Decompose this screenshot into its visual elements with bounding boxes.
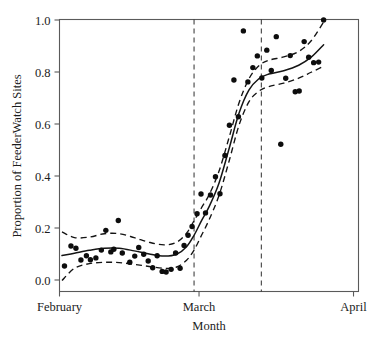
data-point xyxy=(203,210,208,215)
x-axis-title: Month xyxy=(192,319,226,333)
data-point xyxy=(99,247,104,252)
confidence-upper-band xyxy=(62,22,324,245)
data-point xyxy=(73,246,78,251)
data-point xyxy=(283,76,288,81)
x-axis-tick-labels: FebruaryMarchApril xyxy=(37,300,367,314)
data-point xyxy=(154,253,159,258)
data-point xyxy=(316,59,321,64)
x-tick-label: April xyxy=(340,300,367,314)
y-tick-label: 0.8 xyxy=(35,66,51,80)
data-point xyxy=(181,243,186,248)
chart-figure: 0.00.20.40.60.81.0 FebruaryMarchApril Pr… xyxy=(0,0,371,339)
data-point xyxy=(68,243,73,248)
data-point xyxy=(255,53,260,58)
x-tick-label: March xyxy=(183,300,216,314)
data-point xyxy=(194,211,199,216)
data-point xyxy=(88,257,93,262)
y-tick-label: 1.0 xyxy=(35,14,51,28)
data-point xyxy=(136,245,141,250)
y-tick-label: 0.6 xyxy=(35,118,51,132)
data-point xyxy=(250,65,255,70)
data-point xyxy=(297,88,302,93)
data-point xyxy=(127,260,132,265)
data-point xyxy=(93,255,98,260)
data-point xyxy=(185,233,190,238)
data-point xyxy=(274,34,279,39)
x-axis-ticks xyxy=(60,292,354,297)
data-point xyxy=(264,47,269,52)
data-point xyxy=(103,228,108,233)
data-point xyxy=(168,267,173,272)
data-point xyxy=(146,258,151,263)
data-point xyxy=(306,54,311,59)
data-point xyxy=(173,250,178,255)
data-point xyxy=(321,17,326,22)
data-point xyxy=(231,77,236,82)
data-point xyxy=(120,250,125,255)
data-point xyxy=(259,75,264,80)
data-point xyxy=(227,123,232,128)
data-point xyxy=(269,68,274,73)
data-point xyxy=(288,53,293,58)
data-point xyxy=(217,191,222,196)
data-point xyxy=(78,257,83,262)
data-point xyxy=(301,39,306,44)
data-point xyxy=(84,253,89,258)
y-axis-title: Proportion of FeederWatch Sites xyxy=(10,74,24,237)
data-point xyxy=(163,269,168,274)
data-point xyxy=(245,79,250,84)
data-point xyxy=(236,114,241,119)
data-point xyxy=(241,28,246,33)
y-tick-label: 0.0 xyxy=(35,274,51,288)
y-axis-tick-labels: 0.00.20.40.60.81.0 xyxy=(35,14,51,288)
data-point xyxy=(150,265,155,270)
data-point xyxy=(311,60,316,65)
data-point xyxy=(189,224,194,229)
y-axis-ticks xyxy=(55,20,60,280)
scatter-plot-svg: 0.00.20.40.60.81.0 FebruaryMarchApril Pr… xyxy=(0,0,371,339)
data-point xyxy=(62,263,67,268)
data-point xyxy=(132,253,137,258)
data-point xyxy=(278,142,283,147)
y-tick-label: 0.4 xyxy=(35,170,51,184)
data-point xyxy=(198,191,203,196)
data-point xyxy=(116,218,121,223)
x-tick-label: February xyxy=(37,300,83,314)
data-point xyxy=(213,174,218,179)
data-point xyxy=(222,153,227,158)
data-point xyxy=(141,252,146,257)
data-point xyxy=(208,192,213,197)
data-point xyxy=(177,266,182,271)
data-point xyxy=(111,247,116,252)
confidence-upper-path xyxy=(62,22,324,245)
y-tick-label: 0.2 xyxy=(35,222,51,236)
